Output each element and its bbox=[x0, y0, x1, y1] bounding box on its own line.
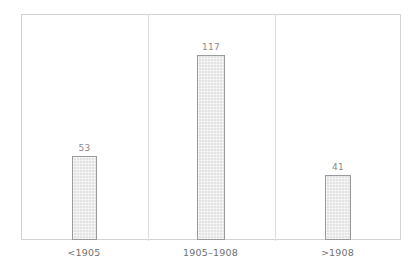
bar-chart: 53 117 41 <1905 1905–1908 >1908 bbox=[0, 0, 420, 270]
bar-gt-1908[interactable] bbox=[325, 175, 351, 240]
bar-value-label-3: 41 bbox=[325, 162, 351, 172]
x-axis-label-gt-1908: >1908 bbox=[274, 247, 401, 258]
bar-1905-1908[interactable] bbox=[197, 55, 225, 240]
bar-lt-1905[interactable] bbox=[72, 156, 97, 240]
x-axis-category-labels: <1905 1905–1908 >1908 bbox=[21, 247, 401, 263]
bars-layer: 53 117 41 bbox=[21, 14, 401, 240]
bar-value-label-1: 53 bbox=[72, 143, 97, 153]
x-axis-label-lt-1905: <1905 bbox=[21, 247, 147, 258]
x-axis-label-1905-1908: 1905–1908 bbox=[147, 247, 274, 258]
bar-value-label-2: 117 bbox=[197, 42, 225, 52]
